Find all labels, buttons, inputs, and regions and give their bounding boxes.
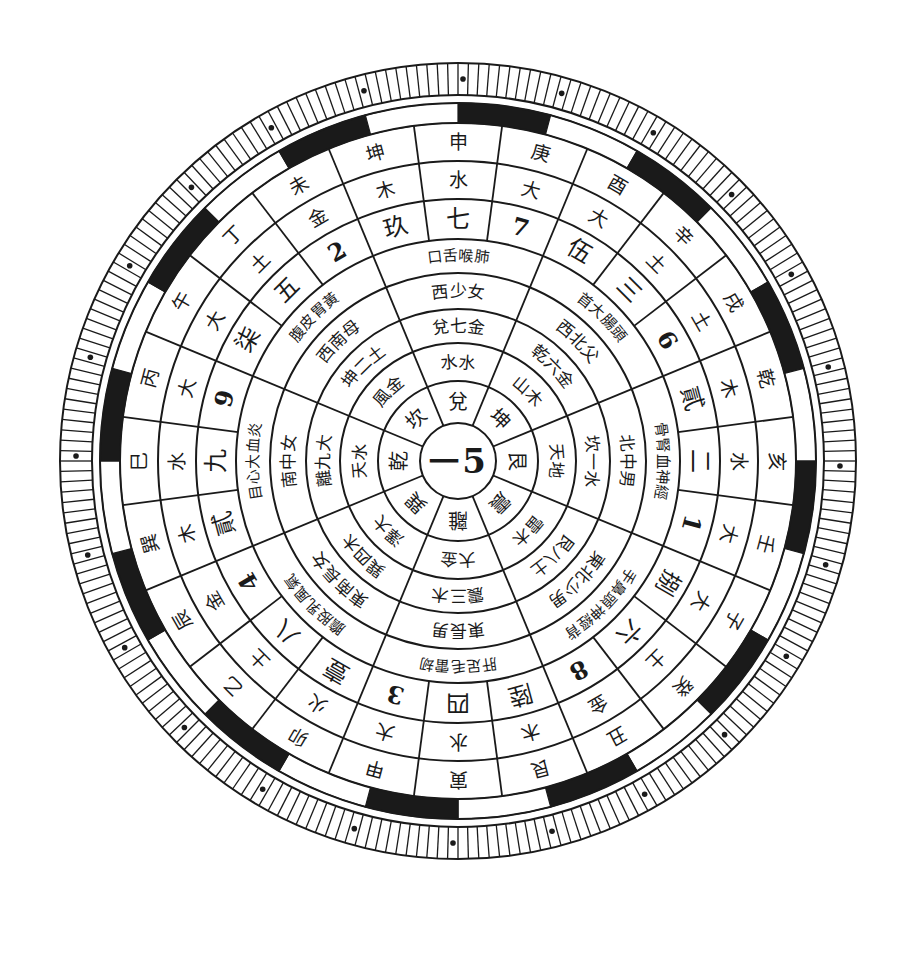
number-ring-label: 柒 (230, 323, 266, 358)
number-ring-label: 伍 (562, 233, 597, 269)
ring5-label: 炎 (245, 421, 265, 439)
ring5-label: 大 (244, 454, 262, 469)
number-ring-label: 8 (565, 654, 594, 687)
ring3-label: 震 (466, 584, 485, 606)
ring2-label: 金 (440, 549, 459, 570)
trigrams-label: 兌 (448, 390, 468, 414)
number-ring-label: 9 (208, 387, 240, 411)
luopan-diagram: 離巽乾坎兌坤艮震大金澤大天水風金水水山木天地雷木震三木巽四木離九大坤二土兌七金乾… (0, 0, 911, 954)
number-ring-label: 玖 (380, 211, 410, 244)
ring5-label: 心 (244, 469, 263, 485)
ring5-label: 血 (654, 454, 672, 469)
number-ring-label: 1 (676, 512, 708, 536)
number-ring-label: 壹 (320, 652, 355, 688)
mountain-ring-label: 戌 (720, 288, 749, 315)
element-ring-label: 大 (687, 588, 716, 615)
element-ring-label: 土 (245, 645, 274, 674)
number-ring-label: 捌 (649, 565, 685, 600)
ring5-label: 腎 (653, 437, 672, 453)
element-ring-label: 大 (716, 522, 742, 546)
mountain-ring-label: 辰 (167, 607, 196, 634)
ring4-label: 中 (618, 453, 638, 470)
number-ring-label: 六 (611, 614, 648, 651)
ring5-label: 經 (651, 484, 671, 502)
ring3-label: 兌 (430, 316, 449, 338)
element-ring-label: 土 (687, 307, 716, 334)
ring4-label: 女 (278, 434, 300, 453)
number-ring-label: 7 (509, 211, 533, 243)
ring5-label: 雷 (434, 656, 450, 675)
ring2-label: 天 (546, 443, 567, 462)
number-ring-label: 3 (384, 679, 408, 711)
ring4-label: 南 (278, 469, 300, 488)
trigrams-label: 坤 (484, 404, 515, 435)
ring5-label: 毛 (451, 657, 466, 675)
ring2-label: 水 (349, 443, 370, 462)
element-ring-label: 水 (728, 452, 750, 471)
ring2-label: 大 (458, 549, 477, 570)
ring3-label: 九 (313, 453, 333, 470)
number-ring-label: 九 (202, 449, 230, 473)
mountain-ring-label: 寅 (449, 769, 468, 791)
ring2-label: 地 (546, 461, 567, 480)
mountain-ring-label: 丑 (604, 723, 631, 752)
mountain-ring-label: 午 (167, 288, 196, 315)
trigrams-label: 乾 (387, 451, 411, 471)
number-ring-label: 四 (446, 689, 470, 717)
ring4-label: 西 (431, 281, 450, 303)
mountain-ring-label: 乾 (753, 366, 779, 390)
element-ring-label: 水 (449, 169, 468, 191)
number-ring-label: 2 (323, 235, 352, 268)
element-ring-label: 水 (449, 731, 468, 753)
mountain-ring-label: 未 (285, 170, 312, 199)
ring3-label: 水 (581, 469, 603, 488)
number-ring-label: 6 (651, 326, 684, 355)
mountain-ring-label: 酉 (604, 170, 631, 199)
center-label-yi: 一 (429, 444, 459, 479)
ring5-label: 喉 (458, 247, 474, 266)
element-ring-label: 大 (373, 719, 397, 745)
element-ring-label: 大 (173, 376, 199, 400)
number-ring-label: 貳 (675, 383, 708, 413)
ring4-label: 北 (616, 434, 638, 453)
ring5-label: 刼 (418, 654, 436, 674)
ring2-label: 水 (458, 352, 477, 373)
number-ring-label: 4 (232, 568, 265, 597)
ring5-label: 足 (466, 656, 482, 675)
ring4-label: 少 (450, 281, 467, 301)
element-ring-label: 金 (304, 203, 331, 232)
element-ring-label: 木 (373, 176, 397, 202)
ring4-label: 長 (450, 621, 467, 641)
number-ring-label: 貳 (208, 508, 241, 538)
ring3-label: 大 (313, 433, 335, 452)
ring3-label: 離 (313, 469, 335, 488)
trigrams-label: 巽 (401, 487, 432, 518)
mountain-ring-label: 亥 (766, 452, 788, 471)
ring3-label: 七 (450, 316, 467, 336)
element-ring-label: 土 (642, 248, 671, 277)
trigrams-label: 離 (448, 508, 468, 532)
mountain-ring-label: 丙 (137, 366, 163, 390)
element-ring-label: 大 (519, 176, 543, 202)
element-ring-label: 火 (304, 690, 331, 719)
mountain-ring-label: 艮 (529, 756, 553, 782)
mountain-ring-label: 丁 (218, 221, 247, 250)
trigrams-label: 艮 (505, 451, 529, 471)
ring3-label: 木 (430, 584, 449, 606)
ring2-label: 水 (440, 352, 459, 373)
mountain-ring-label: 巽 (137, 532, 163, 556)
center-circle: 一 5 (429, 441, 486, 481)
element-ring-label: 土 (642, 645, 671, 674)
mountain-ring-label: 甲 (363, 756, 387, 782)
number-ring-label: 五 (268, 271, 305, 308)
ring5-label: 肝 (481, 654, 499, 674)
ring5-label: 肺 (473, 248, 490, 268)
ring5-label: 血 (244, 437, 263, 453)
number-ring-label: 三 (611, 271, 648, 308)
ring5-label: 神 (653, 469, 672, 485)
center-label-five: 5 (462, 441, 486, 481)
mountain-ring-label: 癸 (669, 672, 698, 701)
element-ring-label: 金 (585, 690, 612, 719)
element-ring-label: 金 (200, 588, 229, 615)
mountain-ring-label: 申 (449, 131, 468, 153)
